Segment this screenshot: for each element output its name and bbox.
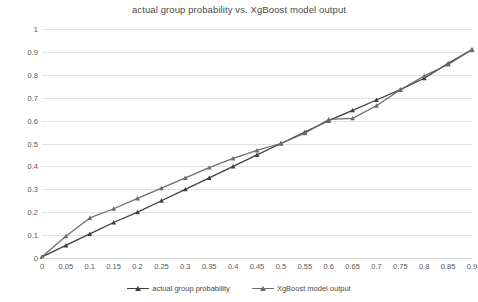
- x-tick-label: 0.75: [393, 262, 408, 271]
- y-tick-label: 0.2: [8, 208, 38, 217]
- x-tick-label: 0.15: [106, 262, 121, 271]
- y-tick-label: 0.3: [8, 185, 38, 194]
- x-axis-line: [42, 258, 472, 259]
- legend-swatch-icon: [127, 284, 149, 293]
- y-tick-label: 0.6: [8, 116, 38, 125]
- x-tick-label: 0.2: [132, 262, 142, 271]
- x-axis-labels: 00.050.10.150.20.250.30.350.40.450.50.55…: [42, 262, 472, 276]
- x-tick-label: 0.5: [276, 262, 286, 271]
- x-tick-label: 0.4: [228, 262, 238, 271]
- y-tick-label: 0.5: [8, 139, 38, 148]
- legend-swatch-icon: [252, 284, 274, 293]
- series-actual-group-probability: [40, 47, 475, 259]
- x-tick-label: 0: [40, 262, 44, 271]
- y-axis-labels: 00.10.20.30.40.50.60.70.80.91: [4, 29, 38, 258]
- legend-label: XgBoost model output: [277, 284, 351, 293]
- x-tick-label: 0.9: [467, 262, 477, 271]
- x-tick-label: 0.7: [371, 262, 381, 271]
- y-tick-label: 1: [8, 25, 38, 34]
- plot-area: [42, 29, 472, 258]
- series-layer: [42, 29, 472, 258]
- x-tick-label: 0.55: [297, 262, 312, 271]
- legend-item[interactable]: XgBoost model output: [252, 284, 351, 293]
- chart-container: actual group probability vs. XgBoost mod…: [0, 0, 478, 302]
- y-tick-label: 0.8: [8, 70, 38, 79]
- x-tick-label: 0.1: [85, 262, 95, 271]
- y-tick-label: 0.7: [8, 93, 38, 102]
- x-tick-label: 0.3: [180, 262, 190, 271]
- x-tick-label: 0.05: [59, 262, 74, 271]
- x-tick-label: 0.8: [419, 262, 429, 271]
- x-tick-label: 0.25: [154, 262, 169, 271]
- x-tick-label: 0.35: [202, 262, 217, 271]
- legend-label: actual group probability: [152, 284, 230, 293]
- y-tick-label: 0.9: [8, 47, 38, 56]
- x-tick-label: 0.45: [250, 262, 265, 271]
- y-tick-label: 0.1: [8, 231, 38, 240]
- x-tick-label: 0.85: [441, 262, 456, 271]
- x-tick-label: 0.6: [323, 262, 333, 271]
- y-tick-label: 0: [8, 254, 38, 263]
- legend-item[interactable]: actual group probability: [127, 284, 230, 293]
- y-tick-label: 0.4: [8, 162, 38, 171]
- data-point-marker: [470, 47, 475, 51]
- chart-legend: actual group probabilityXgBoost model ou…: [0, 284, 478, 293]
- chart-title: actual group probability vs. XgBoost mod…: [0, 4, 478, 15]
- x-tick-label: 0.65: [345, 262, 360, 271]
